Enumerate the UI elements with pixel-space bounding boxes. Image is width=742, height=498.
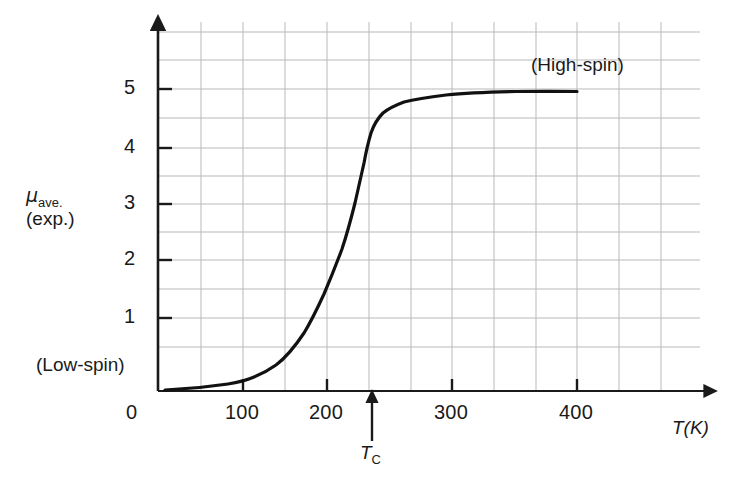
x-axis-ticks	[243, 379, 577, 391]
x-tick-label-100: 100	[225, 402, 259, 423]
y-tick-label-1: 1	[124, 306, 135, 327]
x-tick-label-300: 300	[434, 402, 468, 423]
y-axis-title: μave. (exp.)	[26, 186, 75, 229]
chart-figure: 5 4 3 2 1 0 100 200 300 400 μave. (exp.)…	[0, 0, 742, 498]
y-axis-title-line-2: (exp.)	[26, 209, 75, 229]
chart-plot-area	[0, 0, 742, 498]
tc-symbol: T	[360, 442, 372, 463]
mu-symbol: μ	[26, 184, 38, 206]
y-tick-label-4: 4	[124, 136, 135, 157]
y-tick-label-5: 5	[124, 77, 135, 98]
data-curve	[165, 91, 577, 390]
x-tick-label-200: 200	[309, 402, 343, 423]
tc-subscript: C	[372, 452, 381, 467]
tc-label: TC	[360, 443, 381, 466]
y-tick-label-2: 2	[124, 248, 135, 269]
x-axis-title: T(K)	[672, 418, 709, 438]
x-tick-label-400: 400	[559, 402, 593, 423]
vertical-gridlines	[201, 22, 661, 391]
y-tick-label-3: 3	[124, 192, 135, 213]
high-spin-annotation: (High-spin)	[531, 55, 624, 75]
low-spin-annotation: (Low-spin)	[36, 355, 125, 375]
x-tick-label-0: 0	[126, 402, 137, 423]
x-axis-title-text: T(K)	[672, 417, 709, 438]
y-axis-title-line-1: μave.	[26, 186, 75, 209]
y-axis-ticks	[158, 89, 172, 318]
